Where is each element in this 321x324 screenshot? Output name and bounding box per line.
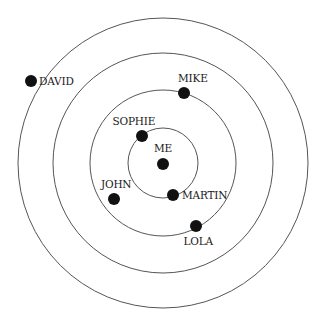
social-circle-diagram: MESOPHIEMARTINJOHNMIKELOLADAVID [0,0,321,324]
node-sophie [136,130,148,142]
node-me [157,158,169,170]
label-john: JOHN [101,179,131,190]
label-mike: MIKE [178,73,208,84]
node-mike [178,87,190,99]
node-martin [167,189,179,201]
label-david: DAVID [39,76,74,87]
label-lola: LOLA [184,236,213,247]
node-john [108,193,120,205]
label-martin: MARTIN [182,190,227,201]
node-david [25,75,37,87]
label-sophie: SOPHIE [113,116,156,127]
rings-layer [0,0,321,324]
node-lola [190,220,202,232]
label-me: ME [154,143,172,154]
